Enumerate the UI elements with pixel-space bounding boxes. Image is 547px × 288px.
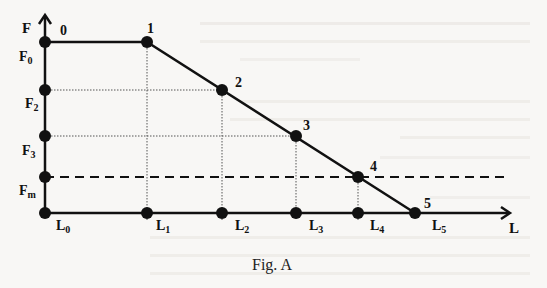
x-tick-l1: L1: [156, 218, 170, 235]
point-label-2: 2: [235, 75, 242, 90]
x-tick-l0: L0: [56, 218, 70, 235]
x-tick-l2: L2: [235, 218, 249, 235]
figure-a: 0 1 2 3 4 5 F L F0 F2 F3 Fm L0 L1 L2 L3 …: [0, 0, 547, 288]
x-axis-label: L: [509, 220, 519, 236]
y-tick-fm: Fm: [19, 183, 37, 200]
y-tick-f0: F0: [19, 49, 33, 66]
point-label-0: 0: [60, 23, 67, 38]
force-length-diagram: 0 1 2 3 4 5 F L F0 F2 F3 Fm L0 L1 L2 L3 …: [0, 0, 547, 288]
point-label-4: 4: [370, 159, 377, 174]
y-tick-f3: F3: [22, 143, 36, 160]
background-bleed-text: [150, 22, 530, 275]
axes: [39, 15, 510, 219]
guide-lines: [45, 42, 358, 220]
y-tick-f2: F2: [25, 96, 39, 113]
data-points: [39, 36, 421, 219]
point-label-1: 1: [147, 21, 154, 36]
x-tick-l5: L5: [432, 218, 446, 235]
figure-caption: Fig. A: [252, 256, 292, 274]
point-label-5: 5: [424, 196, 431, 211]
force-curve: [45, 42, 415, 213]
point-label-3: 3: [303, 118, 310, 133]
x-tick-l4: L4: [370, 218, 384, 235]
y-axis-label: F: [22, 20, 31, 36]
x-tick-l3: L3: [309, 218, 323, 235]
